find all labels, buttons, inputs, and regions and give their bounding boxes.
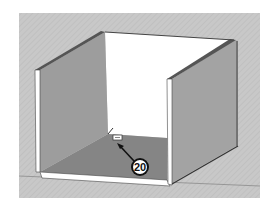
callout-label: 20 <box>134 161 146 173</box>
left-wall-front-edge <box>35 70 40 172</box>
model-viewport[interactable]: 20 <box>0 0 273 210</box>
right-wall-front-edge <box>167 79 172 185</box>
callout-badge: 20 <box>131 158 149 176</box>
